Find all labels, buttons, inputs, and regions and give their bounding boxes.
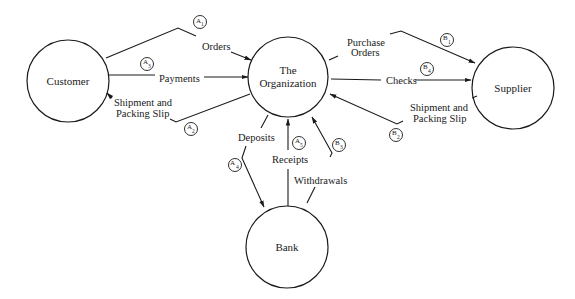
purchase-orders-label-line2: Orders xyxy=(351,47,380,58)
svg-text:3: 3 xyxy=(340,144,343,150)
flow-purchase-orders: Purchase Orders B 1 xyxy=(329,31,475,63)
customer-label: Customer xyxy=(47,75,90,87)
tag-b1: B 1 xyxy=(441,34,454,47)
svg-text:4: 4 xyxy=(428,68,431,74)
flow-receipts: Receipts A 5 xyxy=(272,119,308,206)
shipment-customer-label-line2: Packing Slip xyxy=(116,108,169,119)
svg-text:2: 2 xyxy=(397,134,400,140)
flow-checks: Checks B 4 xyxy=(331,63,471,87)
tag-a3: A 3 xyxy=(141,58,154,71)
flow-shipment-to-customer: Shipment and Packing Slip A 2 xyxy=(107,93,250,136)
tag-b2: B 2 xyxy=(390,129,403,142)
checks-label: Checks xyxy=(386,75,417,86)
flow-shipment-from-supplier: Shipment and Packing Slip B 2 xyxy=(330,94,477,142)
payments-label: Payments xyxy=(159,73,200,84)
orders-label: Orders xyxy=(202,41,231,52)
shipment-customer-label-line1: Shipment and xyxy=(114,97,173,108)
svg-text:5: 5 xyxy=(300,142,303,148)
svg-text:1: 1 xyxy=(448,39,451,45)
node-supplier: Supplier xyxy=(472,47,554,129)
node-customer: Customer xyxy=(27,40,109,122)
tag-a1: A 1 xyxy=(194,16,207,29)
withdrawals-label: Withdrawals xyxy=(294,175,347,186)
node-organization: The Organization xyxy=(248,37,328,117)
svg-text:1: 1 xyxy=(201,21,204,27)
organization-label-line2: Organization xyxy=(259,77,317,89)
shipment-supplier-label-line1: Shipment and xyxy=(410,102,469,113)
flow-orders: Orders A 1 xyxy=(106,16,251,61)
organization-label-line1: The xyxy=(279,64,296,76)
tag-b4: B 4 xyxy=(421,63,434,76)
supplier-label: Supplier xyxy=(494,82,532,94)
flow-deposits: Deposits A 4 xyxy=(229,115,275,207)
node-bank: Bank xyxy=(246,206,328,288)
context-diagram: Customer The Organization Supplier Bank … xyxy=(0,0,575,299)
shipment-supplier-label-line2: Packing Slip xyxy=(413,113,466,124)
svg-text:A: A xyxy=(230,159,235,167)
tag-a2: A 2 xyxy=(185,123,198,136)
bank-label: Bank xyxy=(275,241,299,253)
tag-a4: A 4 xyxy=(229,159,242,172)
svg-text:4: 4 xyxy=(236,164,239,170)
tag-a5: A 5 xyxy=(293,137,306,150)
svg-text:3: 3 xyxy=(148,63,151,69)
svg-text:2: 2 xyxy=(192,128,195,134)
receipts-label: Receipts xyxy=(272,154,308,165)
tag-b3: B 3 xyxy=(333,139,346,152)
flow-payments: Payments A 3 xyxy=(109,58,248,85)
deposits-label: Deposits xyxy=(238,132,275,143)
